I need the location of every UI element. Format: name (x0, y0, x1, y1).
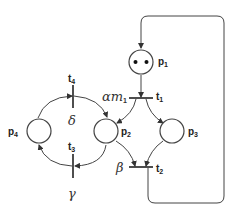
label-p4: p4 (8, 126, 18, 138)
arc-p4-t4 (38, 96, 72, 118)
label-t1: t1 (156, 91, 163, 103)
rate-t1: αm1 (102, 89, 127, 104)
petri-net-diagram: p1 p2 p3 p4 t1 t2 t3 t4 αm1 β γ δ (0, 0, 237, 211)
rate-t2: β (115, 160, 124, 175)
label-t4: t4 (68, 73, 75, 85)
token (134, 60, 138, 64)
token (145, 60, 149, 64)
rate-t4: δ (68, 113, 76, 128)
place-p2 (94, 119, 118, 143)
rate-t3: γ (68, 186, 76, 201)
label-p3: p3 (188, 126, 198, 138)
label-p1: p1 (158, 56, 168, 68)
place-p3 (160, 119, 184, 143)
arc-p3-t2 (146, 141, 163, 166)
place-p4 (27, 119, 51, 143)
arc-t2-p1 (141, 16, 224, 203)
label-t2: t2 (156, 163, 163, 175)
label-p2: p2 (121, 126, 131, 138)
arc-p2-t3 (75, 145, 106, 166)
place-p1 (129, 50, 153, 74)
label-t3: t3 (68, 141, 75, 153)
